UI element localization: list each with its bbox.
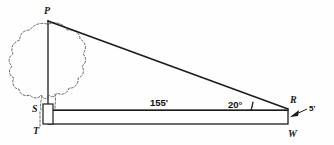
label-angle-20: 20°: [228, 99, 243, 110]
label-point-P: P: [44, 5, 51, 16]
geometry-diagram-canvas: P S T R W 155' 20° 5': [0, 0, 334, 145]
label-beam-height: 5': [309, 104, 315, 113]
figure-svg: P S T R W 155' 20° 5': [0, 0, 334, 145]
label-point-S: S: [32, 103, 38, 114]
label-base-length: 155': [150, 97, 168, 108]
label-point-T: T: [33, 125, 40, 136]
tree-trunk-icon: [41, 96, 42, 110]
beam-rectangle: [48, 110, 288, 124]
tree-outline-icon: [9, 23, 48, 98]
left-support-box: [43, 104, 53, 124]
tree-outline-right-icon: [49, 23, 86, 97]
beam-height-arrowhead-icon: [290, 110, 299, 117]
label-point-R: R: [289, 94, 297, 105]
label-point-W: W: [288, 128, 298, 139]
